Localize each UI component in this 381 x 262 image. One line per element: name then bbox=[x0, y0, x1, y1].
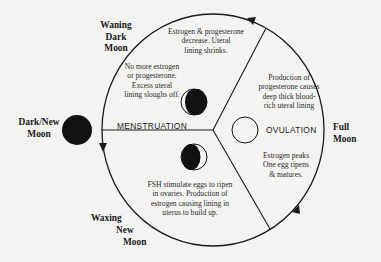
label-full-moon: Full Moon bbox=[333, 122, 373, 145]
waxing-moon-icon bbox=[181, 144, 207, 170]
desc-follicular: FSH stimulate eggs to ripen in ovaries. … bbox=[128, 180, 252, 218]
label-waxing-new-moon: Waxing New Moon bbox=[86, 213, 156, 259]
label-waning-dark-moon: Waning Dark Moon bbox=[93, 20, 139, 55]
arrow-left-icon bbox=[99, 143, 107, 152]
desc-ovulation: Estrogen peaks One egg ripens & matures. bbox=[244, 151, 328, 179]
label-dark-new-moon: Dark/New Moon bbox=[12, 117, 66, 140]
label-ovulation: OVULATION bbox=[266, 125, 316, 135]
dark-moon-icon bbox=[62, 115, 92, 145]
moon-cycle-diagram: Waning Dark Moon Dark/New Moon Waxing Ne… bbox=[0, 0, 381, 262]
desc-luteal: Production of progesterone causes deep t… bbox=[243, 73, 335, 111]
label-menstruation: MENSTRUATION bbox=[117, 121, 187, 131]
desc-menstruation: No more estrogen or progesterone. Excess… bbox=[112, 62, 192, 100]
desc-top: Estrogen & progesterone decrease. Uteral… bbox=[150, 27, 262, 55]
full-moon-icon bbox=[232, 117, 258, 143]
arrow-top-icon bbox=[247, 17, 256, 25]
